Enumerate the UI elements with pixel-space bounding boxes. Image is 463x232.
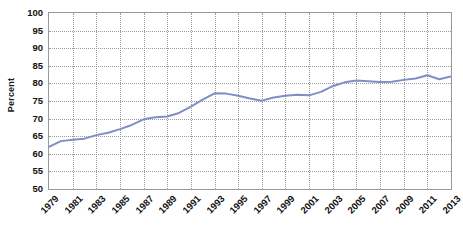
x-tick-1983: 1983 xyxy=(85,193,108,216)
x-tick-label: 1983 xyxy=(85,193,108,216)
x-tick-1991: 1991 xyxy=(180,193,203,216)
x-tick-label: 2013 xyxy=(440,193,463,216)
x-tick-label: 1987 xyxy=(133,193,156,216)
x-tick-label: 2009 xyxy=(393,193,416,216)
y-tick-70: 70 xyxy=(32,112,43,123)
line-chart: Percent 10095908580757065605550 19791981… xyxy=(0,0,463,232)
y-tick-80: 80 xyxy=(32,77,43,88)
x-tick-2005: 2005 xyxy=(345,193,368,216)
y-tick-55: 55 xyxy=(32,165,43,176)
x-tick-2003: 2003 xyxy=(322,193,345,216)
x-tick-2013: 2013 xyxy=(440,193,463,216)
y-tick-85: 85 xyxy=(32,59,43,70)
x-tick-label: 1995 xyxy=(227,193,250,216)
x-tick-1995: 1995 xyxy=(227,193,250,216)
y-tick-100: 100 xyxy=(27,7,43,18)
y-axis-label-text: Percent xyxy=(6,78,16,112)
x-tick-label: 1991 xyxy=(180,193,203,216)
y-tick-50: 50 xyxy=(32,183,43,194)
x-axis-tick-labels: 1979198119831985198719891991199319951997… xyxy=(48,191,452,232)
x-tick-label: 1989 xyxy=(156,193,179,216)
plot-area xyxy=(48,12,452,190)
x-tick-1989: 1989 xyxy=(156,193,179,216)
x-tick-2009: 2009 xyxy=(393,193,416,216)
y-tick-65: 65 xyxy=(32,130,43,141)
y-tick-90: 90 xyxy=(32,42,43,53)
gridline-v-2013 xyxy=(451,13,452,189)
x-tick-1997: 1997 xyxy=(251,193,274,216)
x-tick-label: 1993 xyxy=(204,193,227,216)
x-tick-1999: 1999 xyxy=(275,193,298,216)
x-tick-label: 2001 xyxy=(298,193,321,216)
x-tick-1993: 1993 xyxy=(204,193,227,216)
y-tick-95: 95 xyxy=(32,24,43,35)
y-tick-75: 75 xyxy=(32,95,43,106)
series-path xyxy=(49,75,451,146)
x-tick-1985: 1985 xyxy=(109,193,132,216)
x-tick-label: 1999 xyxy=(275,193,298,216)
x-tick-2011: 2011 xyxy=(417,193,439,215)
data-series-line xyxy=(49,13,451,189)
y-axis-tick-labels: 10095908580757065605550 xyxy=(18,0,46,200)
x-tick-label: 2007 xyxy=(369,193,392,216)
x-tick-label: 1997 xyxy=(251,193,274,216)
x-tick-label: 2011 xyxy=(417,193,439,215)
x-tick-label: 2003 xyxy=(322,193,345,216)
x-tick-label: 1981 xyxy=(62,193,85,216)
x-tick-2007: 2007 xyxy=(369,193,392,216)
x-tick-2001: 2001 xyxy=(298,193,321,216)
x-tick-1987: 1987 xyxy=(133,193,156,216)
x-tick-label: 2005 xyxy=(345,193,368,216)
x-tick-1981: 1981 xyxy=(62,193,85,216)
y-tick-60: 60 xyxy=(32,147,43,158)
x-tick-label: 1985 xyxy=(109,193,132,216)
